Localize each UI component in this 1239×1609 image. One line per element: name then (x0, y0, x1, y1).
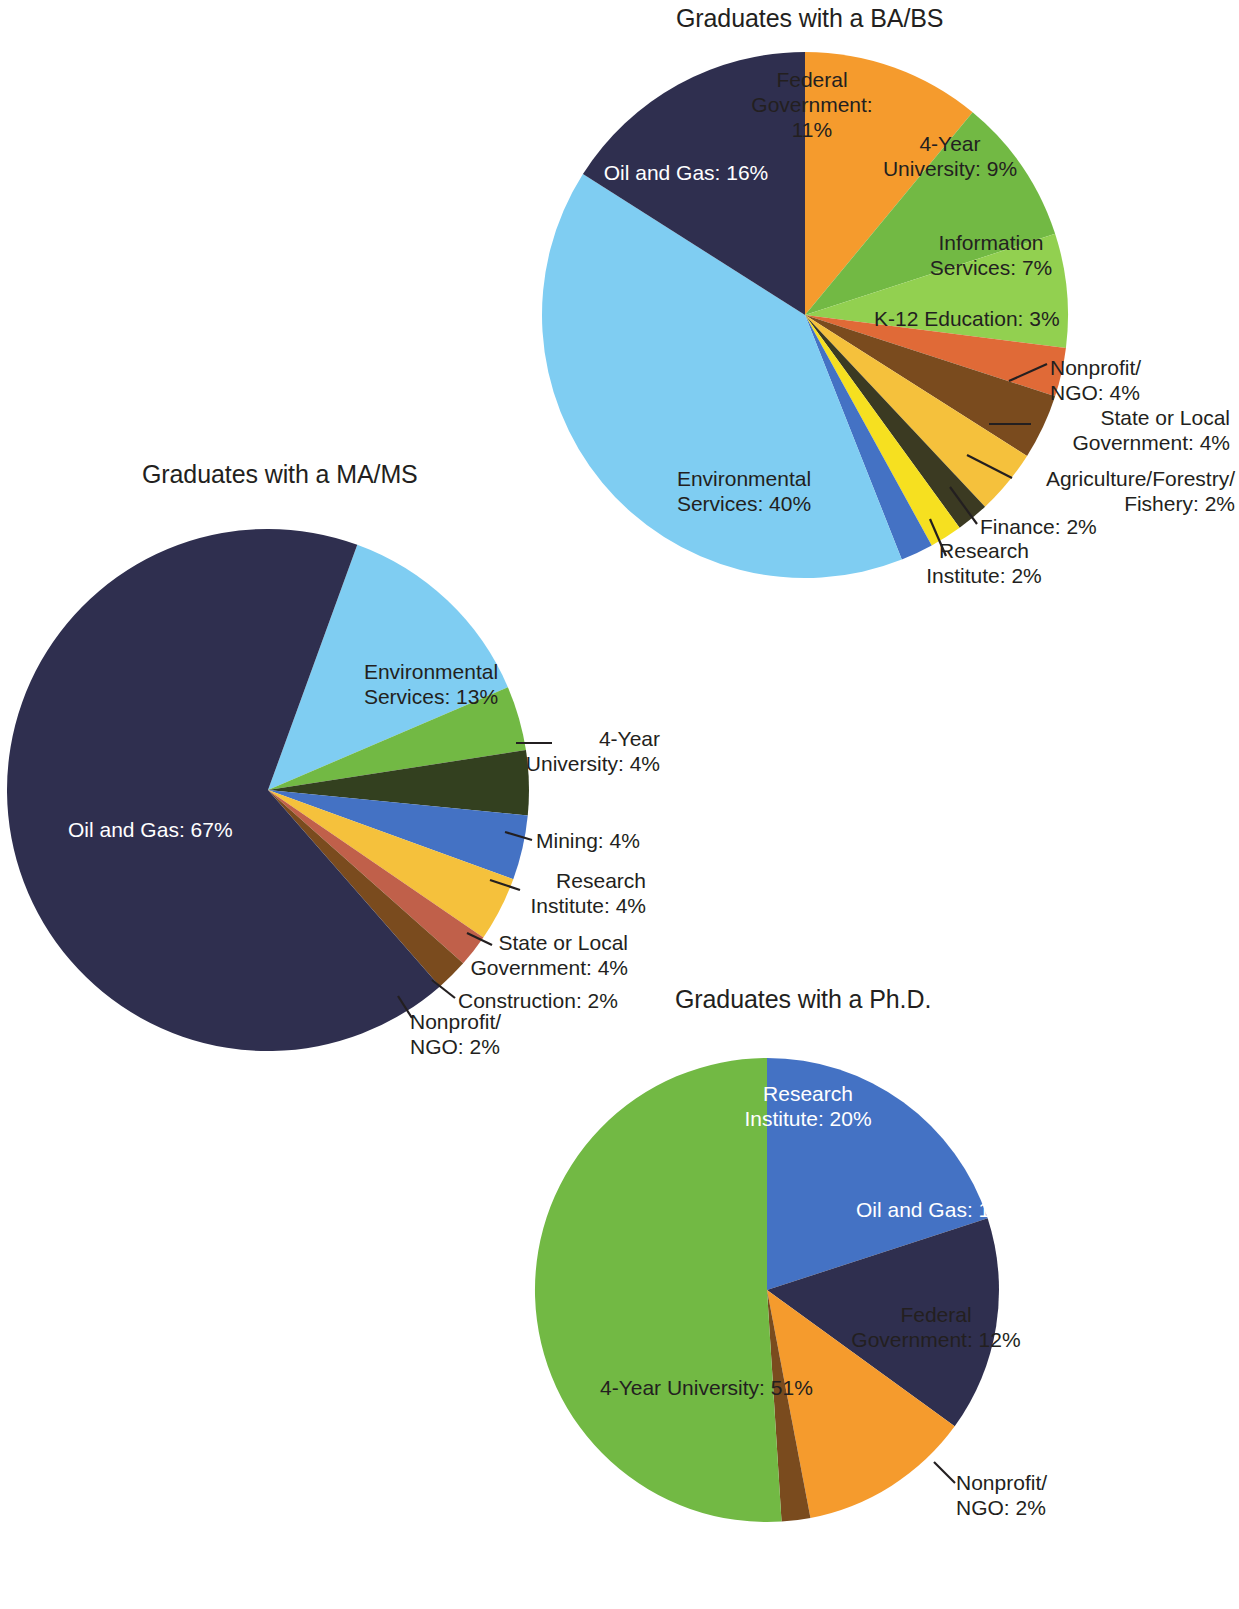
slice-label-4-year-university: 4-YearUniversity: 4% (510, 726, 660, 776)
leader-line-nonprofit-ngo (934, 1462, 955, 1483)
slice-label-nonprofit-ngo: Nonprofit/NGO: 2% (956, 1470, 1047, 1520)
slice-label-mining: Mining: 4% (536, 828, 640, 853)
slice-label-state-or-local-government: State or LocalGovernment: 4% (428, 930, 628, 980)
slice-label-research-institute: ResearchInstitute: 2% (900, 538, 1068, 588)
chart-phd: Graduates with a Ph.D. ResearchInstitute… (0, 975, 1239, 1609)
leader-lines-phd (0, 975, 1239, 1609)
slice-label-nonprofit-ngo: Nonprofit/NGO: 4% (1050, 355, 1141, 405)
slice-label-state-or-local-government: State or LocalGovernment: 4% (1034, 405, 1230, 455)
leader-line-finance (950, 487, 977, 524)
slice-label-finance: Finance: 2% (980, 514, 1097, 539)
slice-label-agriculture-forestry-fishery: Agriculture/Forestry/Fishery: 2% (1013, 466, 1235, 516)
leader-line-agriculture-forestry-fishery (967, 455, 1012, 478)
leader-line-nonprofit-ngo (1009, 364, 1047, 381)
slice-label-research-institute: ResearchInstitute: 4% (476, 868, 646, 918)
leader-line-mining (505, 832, 532, 840)
